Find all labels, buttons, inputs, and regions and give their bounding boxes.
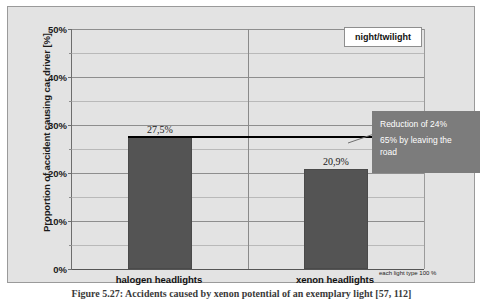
x-category-label: halogen headlights [116,274,203,285]
y-tick-mark-minor [69,53,72,54]
y-tick-mark-minor [69,197,72,198]
y-tick-mark [68,77,72,78]
y-tick-mark [68,221,72,222]
callout-line-1: Reduction of 24% [380,118,472,131]
y-tick-mark-minor [69,245,72,246]
figure: Proportion of accident causing car drive… [0,0,483,300]
y-tick-label: 30% [48,120,67,131]
y-tick-mark-minor [69,101,72,102]
y-tick-mark-minor [69,149,72,150]
reduction-callout: Reduction of 24% 65% by leaving the road [372,111,480,173]
y-tick-label: 0% [53,264,67,275]
y-tick-mark [68,29,72,30]
legend-label: night/twilight [355,32,411,42]
x-axis-line [72,269,424,270]
category-divider [248,29,249,269]
caption-text: Figure 5.27: Accidents caused by xenon p… [72,288,412,299]
y-tick-label: 40% [48,72,67,83]
callout-leader-line [348,134,374,144]
x-category-label: xenon headlights [296,274,374,285]
y-tick-mark [68,173,72,174]
y-tick-label: 20% [48,168,67,179]
bar-value-label: 27,5% [147,124,173,135]
callout-line-3: road [380,146,472,159]
y-tick-label: 50% [48,24,67,35]
legend-night-twilight: night/twilight [344,27,422,47]
chart-frame: Proportion of accident causing car drive… [7,6,475,283]
bar [128,137,192,269]
y-tick-mark [68,125,72,126]
callout-line-2: 65% by leaving the [380,134,472,147]
y-tick-label: 10% [48,216,67,227]
figure-caption: Figure 5.27: Accidents caused by xenon p… [0,288,483,299]
footnote-each-light-type: each light type 100 % [379,270,436,276]
bar [304,169,368,269]
bar-value-label: 20,9% [323,156,349,167]
